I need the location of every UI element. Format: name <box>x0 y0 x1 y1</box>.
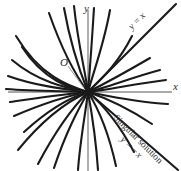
solution-curve <box>74 6 88 92</box>
x-axis-label: x <box>172 80 178 92</box>
solution-curve <box>88 92 98 170</box>
origin-label: O <box>60 56 68 68</box>
y-equals-x-label: y = x <box>126 10 148 32</box>
solution-curve <box>22 47 88 92</box>
phase-portrait-figure: O x y y = x Singular solution y = −x <box>0 0 181 171</box>
solution-curve <box>88 36 132 92</box>
y-axis-label: y <box>83 2 89 14</box>
phase-portrait-canvas: O x y y = x Singular solution y = −x <box>0 0 181 171</box>
solution-curve <box>78 92 88 170</box>
